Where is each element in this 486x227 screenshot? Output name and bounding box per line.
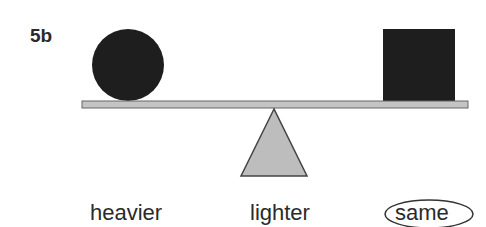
fulcrum	[241, 109, 307, 176]
option-same[interactable]: same	[395, 200, 449, 226]
balance-diagram	[0, 0, 486, 227]
option-heavier[interactable]: heavier	[90, 200, 162, 226]
square-object	[383, 29, 455, 102]
circle-object	[92, 29, 164, 101]
balance-beam	[82, 101, 468, 108]
option-lighter[interactable]: lighter	[250, 200, 310, 226]
